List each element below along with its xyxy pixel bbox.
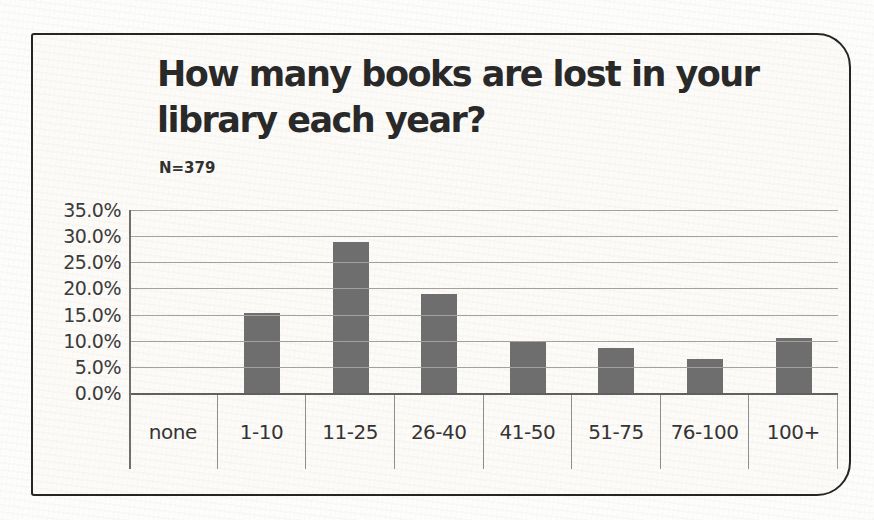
bars-row — [129, 210, 838, 393]
y-axis-tick-label: 35.0% — [63, 199, 121, 221]
bar-cell-26-40 — [395, 210, 484, 393]
y-axis-tick-label: 15.0% — [63, 304, 121, 326]
bar-cell-none — [129, 210, 218, 393]
y-axis: 35.0%30.0%25.0%20.0%15.0%10.0%5.0%0.0% — [33, 210, 121, 393]
plot-area — [129, 210, 838, 395]
y-axis-tick-label: 25.0% — [63, 251, 121, 273]
y-axis-tick-label: 30.0% — [63, 225, 121, 247]
bar-76-100 — [687, 359, 723, 394]
bar-100+ — [776, 338, 812, 393]
y-axis-tick-label: 20.0% — [63, 277, 121, 299]
chart-title-line-2: library each year? — [157, 98, 817, 144]
x-axis-category-label-none: none — [129, 395, 217, 469]
bar-26-40 — [421, 294, 457, 393]
x-axis-category-label-11-25: 11-25 — [305, 395, 394, 469]
chart-title-line-1: How many books are lost in your — [157, 52, 817, 98]
x-axis-category-label-26-40: 26-40 — [394, 395, 483, 469]
chart-title: How many books are lost in your library … — [157, 52, 817, 143]
bar-cell-1-10 — [218, 210, 307, 393]
gridline-15.0% — [129, 315, 838, 316]
bar-cell-41-50 — [484, 210, 573, 393]
gridline-10.0% — [129, 341, 838, 342]
y-axis-tick-label: 10.0% — [63, 330, 121, 352]
gridline-5.0% — [129, 367, 838, 368]
bar-1-10 — [244, 313, 280, 393]
chart-card: How many books are lost in your library … — [31, 33, 851, 496]
x-axis-category-label-1-10: 1-10 — [217, 395, 306, 469]
bar-cell-51-75 — [572, 210, 661, 393]
x-axis-category-label-41-50: 41-50 — [483, 395, 572, 469]
gridline-25.0% — [129, 262, 838, 263]
gridline-20.0% — [129, 288, 838, 289]
gridline-30.0% — [129, 236, 838, 237]
gridline-35.0% — [129, 210, 838, 211]
y-axis-tick-label: 5.0% — [75, 356, 121, 378]
x-axis-category-label-51-75: 51-75 — [571, 395, 660, 469]
bar-11-25 — [333, 242, 369, 393]
x-axis-category-label-100+: 100+ — [748, 395, 838, 469]
bar-cell-76-100 — [661, 210, 750, 393]
x-axis-category-row: none1-1011-2526-4041-5051-7576-100100+ — [129, 395, 838, 469]
y-axis-tick-label: 0.0% — [75, 382, 121, 404]
x-axis-category-label-76-100: 76-100 — [660, 395, 749, 469]
sample-size-label: N=379 — [159, 159, 215, 177]
bar-cell-11-25 — [306, 210, 395, 393]
bar-cell-100+ — [749, 210, 838, 393]
bar-51-75 — [598, 348, 634, 393]
bar-chart: How many books are lost in your library … — [33, 35, 849, 494]
